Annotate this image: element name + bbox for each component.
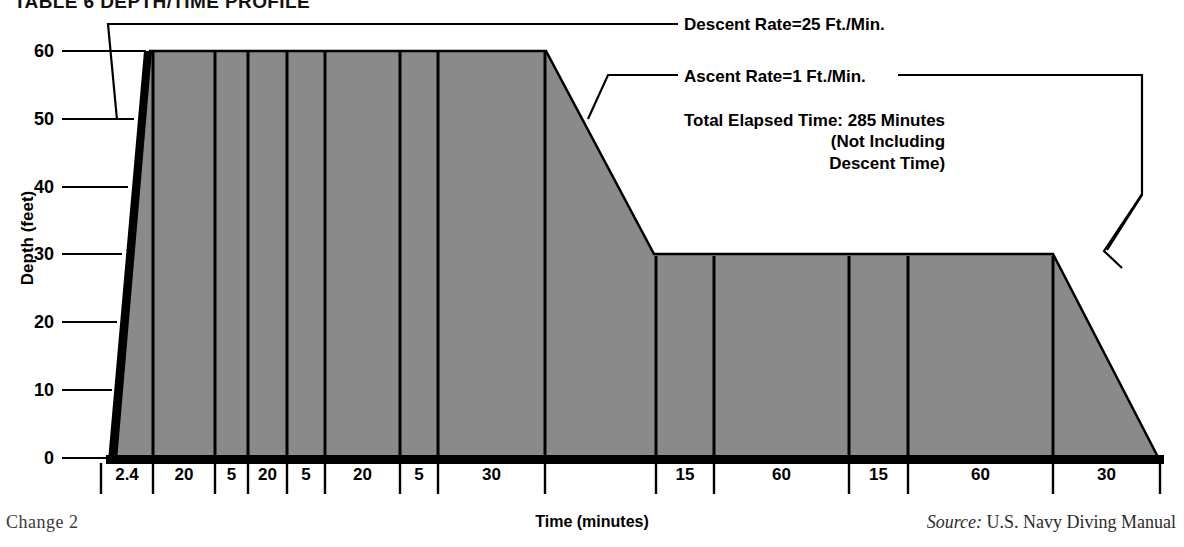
x-seg-label-11: 15 — [849, 466, 908, 483]
dive-profile-area — [114, 51, 1160, 461]
chart-page: TABLE 6 DEPTH/TIME PROFILE — [0, 0, 1184, 547]
total-time-line-1: Total Elapsed Time: 285 Minutes — [684, 111, 945, 130]
footer-change-note: Change 2 — [6, 512, 78, 533]
baseline-bar — [106, 455, 1164, 464]
y-tick-20: 20 — [8, 313, 54, 331]
ascent-rate-leader — [588, 75, 678, 119]
x-seg-label-12: 60 — [908, 466, 1053, 483]
total-time-line-2: (Not Including — [684, 131, 945, 152]
y-tick-0: 0 — [8, 449, 54, 467]
annotation-descent-rate: Descent Rate=25 Ft./Min. — [684, 14, 885, 35]
x-seg-label-5: 5 — [287, 466, 325, 483]
x-seg-label-4: 20 — [248, 466, 287, 483]
x-seg-label-6: 20 — [325, 466, 400, 483]
x-seg-label-1: 2.4 — [101, 466, 153, 483]
x-seg-label-9: 15 — [656, 466, 714, 483]
total-time-line-3: Descent Time) — [684, 153, 945, 174]
annotation-total-elapsed-time: Total Elapsed Time: 285 Minutes (Not Inc… — [684, 110, 945, 174]
x-seg-label-13: 30 — [1053, 466, 1160, 483]
x-seg-label-7: 5 — [400, 466, 438, 483]
x-seg-label-10: 60 — [714, 466, 849, 483]
y-tick-10: 10 — [8, 381, 54, 399]
footer-source: Source: U.S. Navy Diving Manual — [927, 512, 1176, 533]
annotation-ascent-rate: Ascent Rate=1 Ft./Min. — [684, 66, 866, 87]
y-tick-50: 50 — [8, 110, 54, 128]
x-seg-label-8: 30 — [438, 466, 545, 483]
source-label: Source: — [927, 512, 987, 532]
y-tick-30: 30 — [8, 245, 54, 263]
x-seg-label-3: 5 — [215, 466, 248, 483]
x-seg-label-2: 20 — [153, 466, 215, 483]
source-value: U.S. Navy Diving Manual — [987, 512, 1176, 532]
y-tick-60: 60 — [8, 42, 54, 60]
y-tick-40: 40 — [8, 178, 54, 196]
